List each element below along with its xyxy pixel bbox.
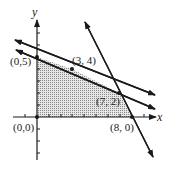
x-axis-label: x: [156, 110, 163, 124]
vertex-label-7-2: (7, 2): [96, 95, 120, 108]
vertex-label-3-4: (3, 4): [72, 54, 96, 67]
feasible-region-graph: y x (0,0) (0,5) (3, 4) (7, 2) (8, 0): [0, 0, 170, 172]
y-axis-label: y: [31, 5, 38, 19]
vertex-label-8-0: (8, 0): [110, 121, 134, 134]
vertex-label-0-5: (0,5): [10, 55, 31, 68]
vertex-label-origin: (0,0): [13, 121, 34, 134]
